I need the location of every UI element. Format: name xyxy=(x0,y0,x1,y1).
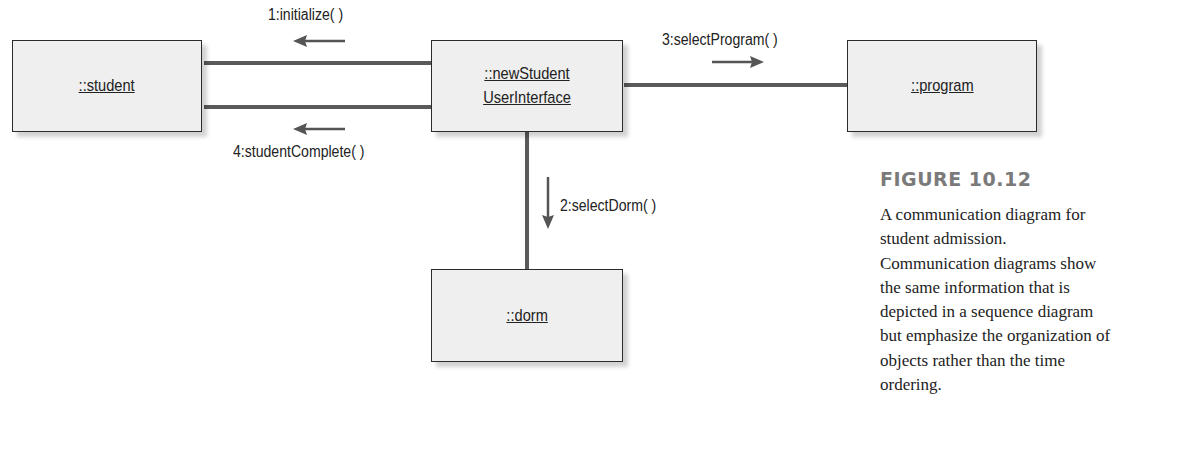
object-new-student-ui: ::newStudent UserInterface xyxy=(431,40,623,132)
figure-caption: A communication diagram for student admi… xyxy=(880,203,1180,397)
arrow-left-icon xyxy=(293,122,347,136)
caption-line: student admission. xyxy=(880,227,1180,251)
caption-line: A communication diagram for xyxy=(880,203,1180,227)
object-dorm-label: ::dorm xyxy=(506,304,547,328)
message-2-label: 2:selectDorm( ) xyxy=(560,197,656,215)
link-ui-dorm xyxy=(525,132,529,270)
object-program: ::program xyxy=(847,40,1037,132)
caption-line: but emphasize the organization of xyxy=(880,324,1180,348)
caption-line: objects rather than the time xyxy=(880,349,1180,373)
message-4-label: 4:studentComplete( ) xyxy=(233,143,364,161)
object-program-label: ::program xyxy=(911,74,974,98)
object-ui-label-line1: ::newStudent xyxy=(484,64,569,83)
message-3-label: 3:selectProgram( ) xyxy=(662,31,778,49)
object-new-student-ui-label: ::newStudent UserInterface xyxy=(483,62,571,110)
link-student-ui-bottom xyxy=(204,105,432,109)
link-ui-program xyxy=(624,83,848,87)
object-dorm: ::dorm xyxy=(431,269,623,362)
object-student: ::student xyxy=(12,40,202,132)
object-student-label: ::student xyxy=(79,74,135,98)
message-1-label: 1:initialize( ) xyxy=(268,6,343,24)
link-student-ui-top xyxy=(204,61,432,65)
figure-title: FIGURE 10.12 xyxy=(880,168,1031,190)
caption-line: depicted in a sequence diagram xyxy=(880,300,1180,324)
caption-line: the same information that is xyxy=(880,276,1180,300)
object-ui-label-line2: UserInterface xyxy=(483,88,571,107)
arrow-left-icon xyxy=(293,34,347,48)
arrow-right-icon xyxy=(712,55,766,69)
caption-line: ordering. xyxy=(880,373,1180,397)
arrow-down-icon xyxy=(541,177,555,231)
caption-line: Communication diagrams show xyxy=(880,252,1180,276)
